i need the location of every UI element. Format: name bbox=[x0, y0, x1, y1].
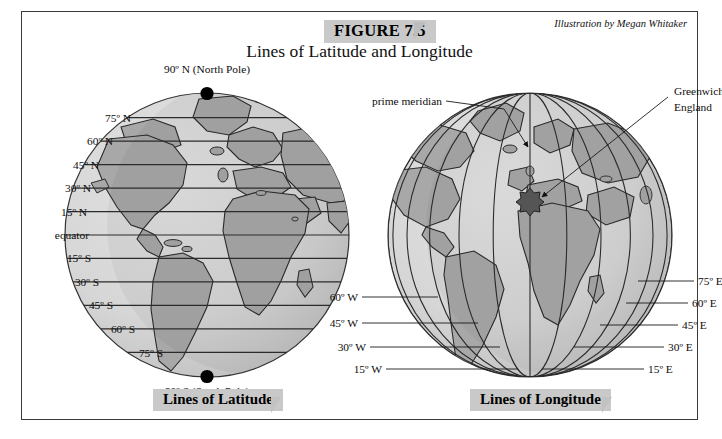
latitude-label-equator: equator bbox=[55, 229, 89, 241]
longitude-caption: Lines of Longitude bbox=[470, 389, 611, 411]
longitude-label-60W: 60º W bbox=[330, 291, 359, 303]
latitude-globe-svg: 90º N (North Pole) 90º S (South Pole) 75… bbox=[47, 75, 377, 395]
latitude-label-30S: 30º S bbox=[75, 276, 99, 288]
latitude-label-15N: 15º N bbox=[61, 206, 87, 218]
latitude-label-15S: 15º S bbox=[67, 252, 91, 264]
figure-title: Lines of Latitude and Longitude bbox=[22, 41, 697, 62]
latitude-label-30N: 30º N bbox=[65, 182, 91, 194]
longitude-globe-svg: prime meridian Greenwich, England 60º W … bbox=[382, 75, 692, 395]
globe-shadow bbox=[107, 75, 407, 375]
longitude-label-30E: 30º E bbox=[668, 341, 693, 353]
greenwich-marker-icon bbox=[516, 188, 544, 216]
latitude-caption: Lines of Latitude bbox=[153, 389, 283, 411]
illustration-credit: Illustration by Megan Whitaker bbox=[554, 18, 687, 29]
longitude-label-30W: 30º W bbox=[338, 341, 367, 353]
latitude-label-60N: 60º N bbox=[87, 135, 113, 147]
latitude-label-60S: 60º S bbox=[111, 323, 135, 335]
latitude-label-75S: 75º S bbox=[139, 347, 163, 359]
longitude-label-15W: 15º W bbox=[354, 363, 383, 375]
greenwich-label-line2: England bbox=[674, 101, 712, 113]
latitude-globe: 90º N (North Pole) 90º S (South Pole) 75… bbox=[47, 75, 377, 395]
greenwich-label-line1: Greenwich, bbox=[674, 85, 722, 97]
longitude-label-45W: 45º W bbox=[330, 317, 359, 329]
latitude-label-45N: 45º N bbox=[73, 159, 99, 171]
longitude-label-60E: 60º E bbox=[692, 297, 717, 309]
longitude-label-75E: 75º E bbox=[698, 275, 722, 287]
north-pole-dot-icon bbox=[200, 87, 213, 100]
longitude-label-45E: 45º E bbox=[682, 319, 707, 331]
latitude-label-75N: 75º N bbox=[105, 112, 131, 124]
figure-frame: FIGURE 7.5 Lines of Latitude and Longitu… bbox=[21, 11, 698, 420]
north-pole-label: 90º N (North Pole) bbox=[164, 63, 250, 76]
latitude-label-45S: 45º S bbox=[89, 299, 113, 311]
south-pole-dot-icon bbox=[200, 370, 213, 383]
prime-meridian-label: prime meridian bbox=[372, 95, 442, 107]
longitude-globe: prime meridian Greenwich, England 60º W … bbox=[382, 75, 692, 395]
longitude-label-15E: 15º E bbox=[648, 363, 673, 375]
